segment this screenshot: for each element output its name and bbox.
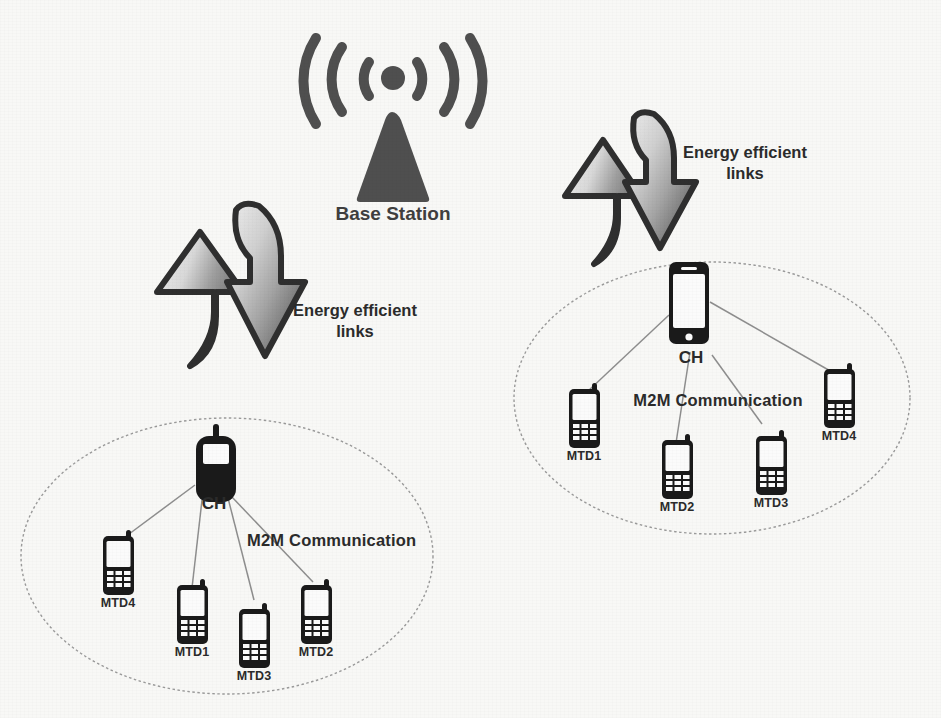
keypad-phone-icon-mtd2 (301, 579, 332, 644)
m2m-communication-label-right: M2M Communication (633, 391, 802, 410)
keypad-phone-icon-mtd4 (824, 363, 855, 428)
node-label-mtd3: MTD3 (754, 496, 788, 511)
energy-efficient-links-label-right: Energy efficient links (683, 142, 807, 183)
keypad-phone-icon-mtd3 (756, 430, 787, 495)
feature-phone-icon (196, 424, 236, 502)
keypad-phone-icon-mtd1 (177, 579, 208, 644)
node-label-mtd1: MTD1 (567, 449, 601, 464)
node-label-mtd2: MTD2 (660, 500, 694, 515)
node-label-mtd2: MTD2 (299, 645, 333, 660)
diagram-vector-layer (0, 0, 941, 718)
link-ch-mtd4 (710, 302, 832, 372)
curved-up-arrow-icon (157, 232, 243, 366)
node-label-mtd4: MTD4 (822, 429, 856, 444)
keypad-phone-icon-mtd1 (569, 383, 600, 448)
node-label-mtd1: MTD1 (175, 645, 209, 660)
smartphone-icon (669, 262, 709, 344)
antenna-tower-icon (303, 38, 482, 202)
curved-up-arrow-icon (565, 140, 641, 264)
energy-label-line1: Energy efficient (683, 142, 807, 163)
keypad-phone-icon-mtd4 (103, 530, 134, 595)
energy-link-right-arrows (565, 112, 696, 264)
link-ch-mtd4 (121, 485, 195, 540)
keypad-phone-icon-mtd3 (239, 603, 270, 668)
energy-label-line2: links (293, 321, 417, 342)
cluster-head-label-left: CH (202, 494, 227, 514)
node-label-mtd4: MTD4 (101, 596, 135, 611)
link-ch-mtd3 (712, 355, 762, 424)
energy-label-line2: links (683, 163, 807, 184)
keypad-phone-icon-mtd2 (662, 434, 693, 499)
cluster-links (587, 302, 832, 443)
cluster-left (21, 418, 433, 694)
energy-label-line1: Energy efficient (293, 300, 417, 321)
link-ch-mtd1 (587, 315, 669, 392)
base-station-label: Base Station (335, 203, 450, 225)
node-label-mtd3: MTD3 (237, 669, 271, 684)
cluster-head-label-right: CH (679, 348, 704, 368)
energy-efficient-links-label-left: Energy efficient links (293, 300, 417, 341)
energy-link-left-arrows (157, 204, 305, 366)
diagram-canvas: Base Station Energy efficient links Ener… (0, 0, 941, 718)
m2m-communication-label-left: M2M Communication (247, 531, 416, 550)
link-ch-mtd1 (192, 500, 202, 588)
